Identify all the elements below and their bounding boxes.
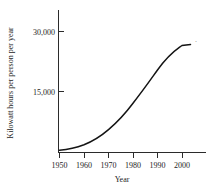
y-tick-label-30000: 30,000 xyxy=(33,28,55,37)
curve-end-mark-annotation: · xyxy=(195,39,197,45)
data-series-curve xyxy=(60,45,191,151)
x-tick-label-1960: 1960 xyxy=(76,161,92,170)
x-tick-label-1980: 1980 xyxy=(125,161,141,170)
y-tick-label-15000: 15,000 xyxy=(33,88,55,97)
x-tick-label-2000: 2000 xyxy=(174,161,190,170)
x-tick-label-1990: 1990 xyxy=(150,161,166,170)
chart-plot-area: 30,000 15,000 1950 1960 1970 1980 1990 2… xyxy=(0,0,213,190)
x-axis-title: Year xyxy=(115,175,130,184)
y-axis-title: Kilowatt hours per person per year xyxy=(6,27,15,139)
chart-container: 30,000 15,000 1950 1960 1970 1980 1990 2… xyxy=(0,0,213,190)
x-tick-label-1950: 1950 xyxy=(52,161,68,170)
x-tick-label-1970: 1970 xyxy=(101,161,117,170)
